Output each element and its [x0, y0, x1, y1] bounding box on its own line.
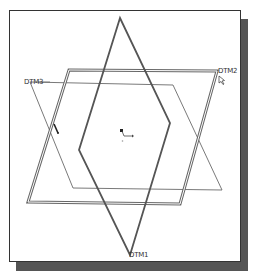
datum-plane-scene[interactable]: [0, 0, 254, 279]
dtm1-label[interactable]: DTM1: [129, 251, 148, 259]
selection-pointer-icon: [54, 124, 59, 134]
dtm3-label[interactable]: DTM3: [24, 78, 43, 86]
datum-plane-dtm2[interactable]: [28, 70, 217, 204]
mouse-cursor-icon: [219, 76, 225, 85]
datum-plane-dtm1[interactable]: [79, 18, 170, 255]
csys-icon: [120, 129, 134, 142]
dtm2-label[interactable]: DTM2: [218, 67, 237, 75]
